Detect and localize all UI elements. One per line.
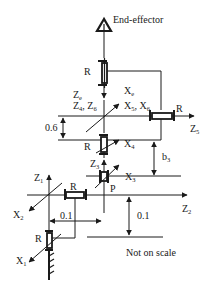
z2-label: Z2 bbox=[182, 203, 191, 215]
z4-z6-label: Z4, Z6 bbox=[73, 100, 97, 112]
kinematic-diagram: End-effector R Ze Xe Z4, Z6 X5, X6 R Z5 … bbox=[0, 0, 209, 284]
dim-0.1-vertical-label: 0.1 bbox=[137, 210, 150, 221]
x1-label: X1 bbox=[16, 255, 26, 267]
z5-label: Z5 bbox=[190, 123, 199, 135]
z3-label: Z3 bbox=[90, 158, 99, 170]
joint-p-label: P bbox=[110, 183, 116, 194]
revolute-joint-z5-icon bbox=[152, 113, 172, 119]
dim-0.6-label: 0.6 bbox=[45, 122, 58, 133]
b3-label: b3 bbox=[162, 151, 170, 163]
joint-r-x4-label: R bbox=[84, 141, 91, 152]
x5-x6-label: X5, X6 bbox=[124, 100, 151, 112]
revolute-joint-z2-icon bbox=[66, 192, 84, 198]
joint-r-base-label: R bbox=[35, 233, 42, 244]
x2-axis bbox=[29, 183, 62, 211]
joint-r-z5-label: R bbox=[176, 103, 183, 114]
joint-r-top-label: R bbox=[84, 66, 91, 77]
xe-label: Xe bbox=[124, 85, 134, 97]
z1-label: Z1 bbox=[34, 172, 43, 184]
not-on-scale-note: Not on scale bbox=[126, 247, 177, 258]
x2-label: X2 bbox=[13, 209, 23, 221]
dim-0.1-horizontal-label: 0.1 bbox=[60, 210, 73, 221]
ground-icon bbox=[49, 250, 54, 280]
x3-label: X3 bbox=[125, 171, 135, 183]
x1-axis bbox=[29, 234, 61, 262]
end-effector-label: End-effector bbox=[113, 14, 164, 25]
joint-r-z2-label: R bbox=[70, 181, 77, 192]
